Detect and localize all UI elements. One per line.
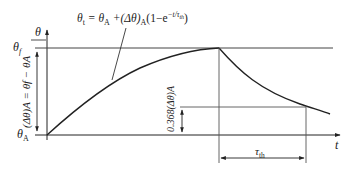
theta-f-label: θf [13,40,23,56]
theta-a-label: θA [17,127,29,143]
cooling-curve [219,48,330,114]
formula-text: θt = θA +(Δθ)A(1−e−t/τth) [77,10,188,27]
formula-leader [112,28,126,80]
x-axis-label: t [335,138,339,152]
delta-theta-label: (Δθ)A = θf − θA [20,56,33,128]
thermal-curve-diagram: θt = θA +(Δθ)A(1−e−t/τth) θ θf θA (Δθ)A … [0,0,354,173]
heating-curve [47,48,219,135]
decay-fraction-label: 0.368(Δθ)A [165,85,177,132]
y-axis-label: θ [35,25,41,39]
